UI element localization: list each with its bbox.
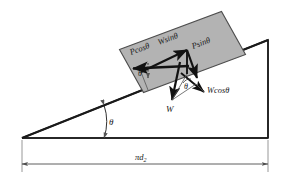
physics-diagram-container: θ bbox=[0, 0, 288, 181]
incline-base-angle-label: θ bbox=[109, 117, 114, 127]
inclined-plane-figure: θ bbox=[0, 0, 288, 181]
block-upper-angle-label: θ bbox=[138, 69, 142, 78]
base-dimension: πd2 bbox=[22, 140, 268, 172]
w-cos-theta-label: Wcosθ bbox=[207, 86, 229, 95]
base-dimension-label: πd2 bbox=[135, 152, 147, 163]
block-lower-angle-label: θ bbox=[184, 82, 188, 91]
base-dimension-label-subscript: 2 bbox=[144, 157, 147, 163]
